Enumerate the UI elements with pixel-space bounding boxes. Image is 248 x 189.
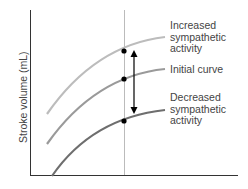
label-line: Increased [170,20,226,32]
arrow-down-icon [131,107,138,114]
y-axis-label: Stroke volume (mL) [17,53,29,143]
curve-initial [47,69,165,144]
label-increased: Increased sympathetic activity [170,20,226,55]
point-increased [121,48,126,53]
label-line: activity [170,115,226,127]
point-decreased [121,118,126,123]
label-line: activity [170,43,226,55]
curve-increased [47,37,165,114]
arrow-up-icon [131,50,138,57]
label-line: Decreased [170,92,226,104]
label-decreased: Decreased sympathetic activity [170,92,226,127]
point-initial [121,76,126,81]
curve-decreased [52,110,165,176]
label-initial: Initial curve [170,64,223,76]
